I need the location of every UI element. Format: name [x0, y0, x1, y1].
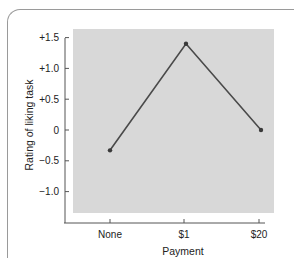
data-point: [259, 128, 263, 132]
x-ticks: None$1$20: [98, 219, 268, 240]
x-axis-title: Payment: [162, 245, 204, 257]
y-axis-title: Rating of liking task: [23, 79, 35, 171]
data-point: [184, 42, 188, 46]
plot-area: [73, 29, 274, 213]
y-tick-label: −0.5: [39, 155, 59, 166]
x-tick-label: $1: [178, 229, 190, 240]
data-point: [108, 148, 112, 152]
x-tick-label: $20: [251, 229, 268, 240]
x-tick-label: None: [98, 229, 122, 240]
y-tick-label: +1.5: [39, 32, 59, 43]
y-tick-label: +0.5: [39, 94, 59, 105]
y-tick-label: +1.0: [39, 63, 59, 74]
y-tick-label: 0: [53, 125, 59, 136]
line-chart: +1.5+1.0+0.50−0.5−1.0 None$1$20 Payment …: [0, 0, 294, 267]
y-tick-label: −1.0: [39, 186, 59, 197]
